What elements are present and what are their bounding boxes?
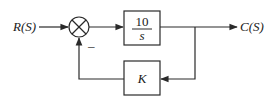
feedback-branch-arrow — [161, 27, 195, 79]
feedback-block: K — [124, 61, 160, 95]
output-label: C(S) — [240, 19, 264, 34]
forward-block-denominator: s — [139, 28, 144, 43]
forward-block: 10 s — [124, 11, 160, 45]
block-diagram: R(S) – 10 s C(S) K — [0, 0, 270, 102]
feedback-minus-sign: – — [87, 38, 95, 53]
forward-block-numerator: 10 — [136, 14, 149, 29]
summing-junction — [69, 17, 89, 37]
feedback-block-label: K — [137, 71, 148, 86]
input-label: R(S) — [12, 19, 36, 34]
feedback-return-arrow — [79, 38, 124, 79]
